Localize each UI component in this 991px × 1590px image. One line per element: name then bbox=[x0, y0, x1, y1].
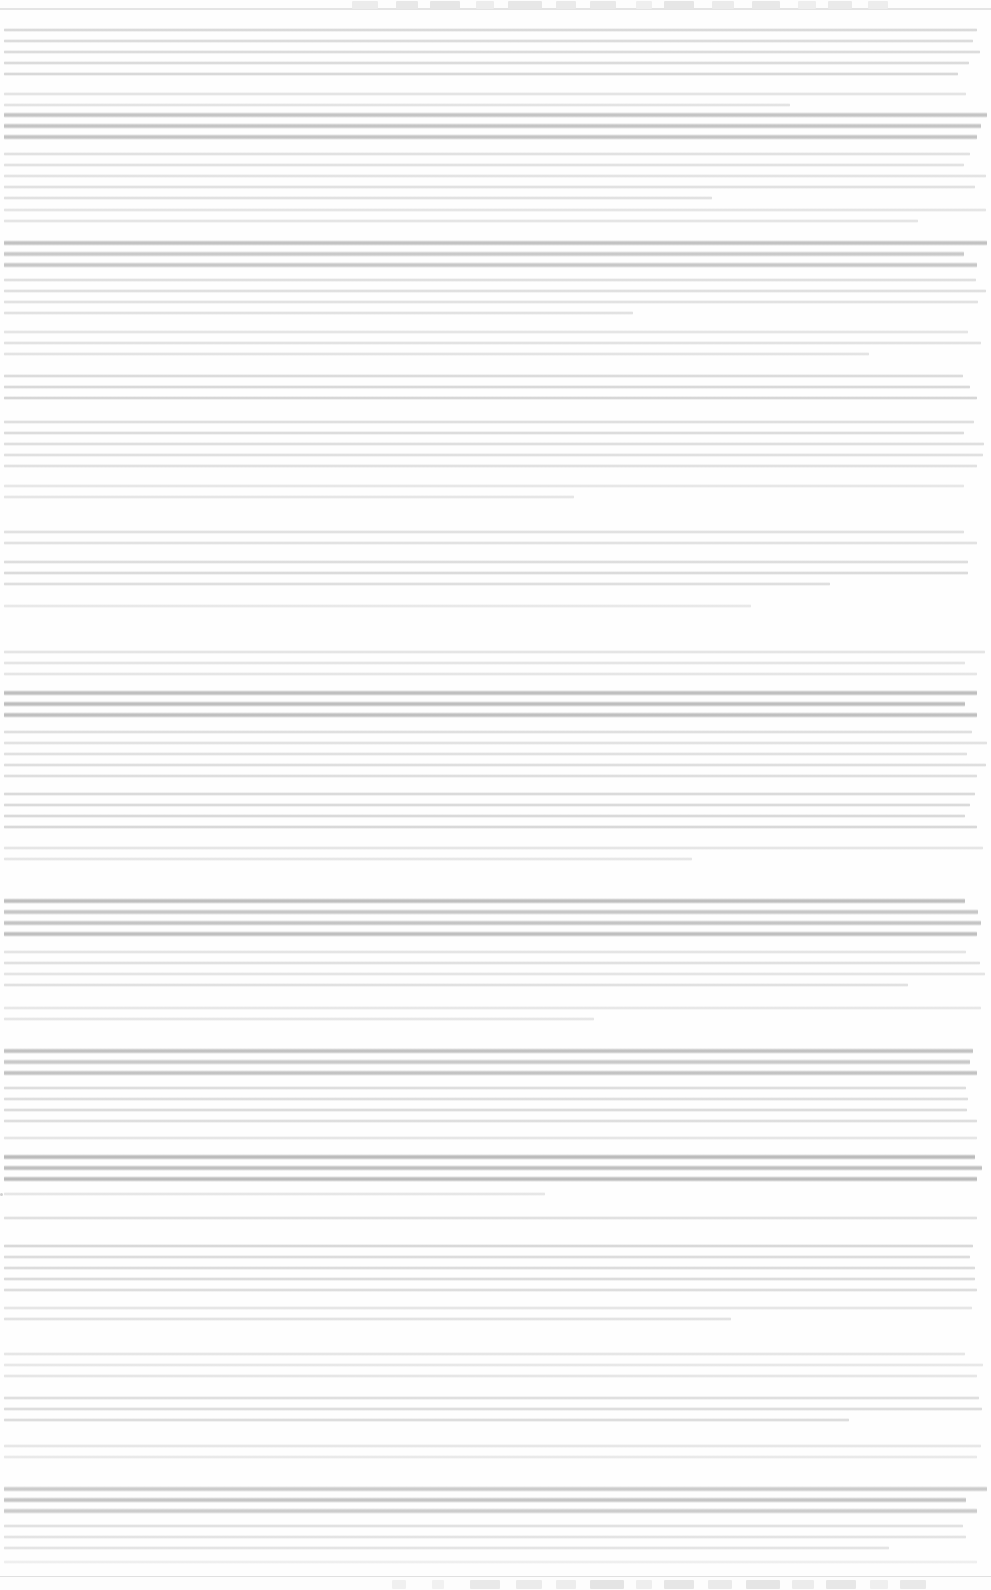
tab-item[interactable] bbox=[396, 1, 418, 9]
tab-item[interactable] bbox=[590, 1, 616, 9]
tab-item[interactable] bbox=[556, 1, 576, 9]
text-line bbox=[4, 920, 981, 926]
section-heading bbox=[0, 240, 991, 273]
taskbar-button[interactable] bbox=[590, 1580, 624, 1589]
text-line bbox=[4, 61, 969, 65]
text-line bbox=[4, 464, 977, 468]
text-line bbox=[4, 1070, 977, 1076]
text-line bbox=[4, 1006, 981, 1010]
text-line bbox=[4, 196, 712, 200]
taskbar-button[interactable] bbox=[900, 1580, 926, 1589]
text-line bbox=[4, 39, 973, 43]
text-line bbox=[4, 442, 984, 446]
text-line bbox=[4, 1524, 963, 1528]
tab-item[interactable] bbox=[712, 1, 734, 9]
tab-item[interactable] bbox=[430, 1, 460, 9]
text-line bbox=[4, 1192, 545, 1196]
text-line bbox=[4, 1444, 981, 1448]
text-line bbox=[4, 278, 976, 282]
taskbar-button[interactable] bbox=[392, 1580, 406, 1589]
text-line bbox=[4, 931, 977, 937]
text-line bbox=[4, 1560, 977, 1564]
tab-item[interactable] bbox=[798, 1, 816, 9]
paragraph bbox=[0, 1396, 991, 1429]
bullet-icon bbox=[0, 1193, 3, 1196]
paragraph bbox=[0, 208, 991, 230]
tab-item[interactable] bbox=[636, 1, 652, 9]
paragraph bbox=[0, 792, 991, 836]
list-item bbox=[0, 1192, 991, 1203]
text-line bbox=[4, 1097, 968, 1101]
paragraph bbox=[0, 1352, 991, 1385]
text-line bbox=[4, 50, 980, 54]
text-line bbox=[4, 730, 972, 734]
tab-item[interactable] bbox=[352, 1, 378, 9]
taskbar-button[interactable] bbox=[870, 1580, 888, 1589]
text-line bbox=[4, 650, 985, 654]
taskbar-button[interactable] bbox=[516, 1580, 542, 1589]
paragraph bbox=[0, 950, 991, 994]
tab-item[interactable] bbox=[868, 1, 888, 9]
taskbar-button[interactable] bbox=[708, 1580, 732, 1589]
screenshot-root bbox=[0, 0, 991, 1590]
paragraph bbox=[0, 330, 991, 363]
text-line bbox=[4, 712, 977, 718]
text-line bbox=[4, 396, 977, 400]
text-line bbox=[4, 661, 965, 665]
text-line bbox=[4, 484, 964, 488]
tab-item[interactable] bbox=[828, 1, 852, 9]
text-line bbox=[4, 185, 975, 189]
taskbar-button[interactable] bbox=[664, 1580, 694, 1589]
text-line bbox=[4, 1317, 731, 1321]
text-line bbox=[4, 352, 869, 356]
paragraph bbox=[0, 1086, 991, 1130]
text-line bbox=[4, 1176, 977, 1182]
text-line bbox=[4, 300, 978, 304]
text-line bbox=[4, 972, 985, 976]
text-line bbox=[4, 1017, 594, 1021]
paragraph bbox=[0, 560, 991, 593]
tab-item[interactable] bbox=[508, 1, 542, 9]
taskbar-button[interactable] bbox=[556, 1580, 576, 1589]
paragraph bbox=[0, 484, 991, 506]
text-line bbox=[4, 152, 970, 156]
text-line bbox=[4, 690, 977, 696]
taskbar-button[interactable] bbox=[470, 1580, 500, 1589]
paragraph bbox=[0, 1524, 991, 1557]
text-line bbox=[4, 825, 977, 829]
text-line bbox=[4, 582, 830, 586]
taskbar-button[interactable] bbox=[792, 1580, 814, 1589]
text-line bbox=[4, 123, 981, 129]
text-line bbox=[4, 846, 983, 850]
text-line bbox=[4, 28, 977, 32]
taskbar-button[interactable] bbox=[432, 1580, 444, 1589]
text-line bbox=[4, 431, 964, 435]
text-line bbox=[4, 961, 980, 965]
text-line bbox=[4, 341, 981, 345]
paragraph bbox=[0, 650, 991, 683]
taskbar-button[interactable] bbox=[826, 1580, 856, 1589]
top-tab-strip[interactable] bbox=[0, 0, 991, 10]
text-line bbox=[4, 1374, 977, 1378]
taskbar-button[interactable] bbox=[636, 1580, 652, 1589]
text-line bbox=[4, 541, 977, 545]
paragraph bbox=[0, 604, 991, 615]
text-line bbox=[4, 453, 983, 457]
paragraph bbox=[0, 420, 991, 475]
text-line bbox=[4, 134, 977, 140]
text-line bbox=[4, 1306, 972, 1310]
text-line bbox=[4, 1266, 975, 1270]
text-line bbox=[4, 530, 964, 534]
tab-item[interactable] bbox=[752, 1, 780, 9]
text-line bbox=[4, 1407, 982, 1411]
text-line bbox=[4, 208, 986, 212]
text-line bbox=[4, 1086, 966, 1090]
tab-item[interactable] bbox=[664, 1, 694, 9]
section-heading bbox=[0, 690, 991, 723]
tab-item[interactable] bbox=[476, 1, 494, 9]
taskbar-button[interactable] bbox=[746, 1580, 780, 1589]
text-line bbox=[4, 385, 970, 389]
bottom-taskbar[interactable] bbox=[0, 1576, 991, 1590]
text-line bbox=[4, 1119, 977, 1123]
text-line bbox=[4, 792, 975, 796]
